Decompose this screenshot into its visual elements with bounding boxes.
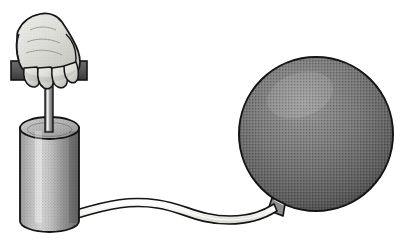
pump-cylinder — [20, 117, 79, 232]
illustration-canvas — [0, 0, 400, 240]
ball — [239, 57, 393, 211]
cylinder-shade — [69, 131, 79, 223]
cylinder-highlight — [35, 131, 42, 223]
pump-balloon-illustration — [0, 0, 400, 240]
